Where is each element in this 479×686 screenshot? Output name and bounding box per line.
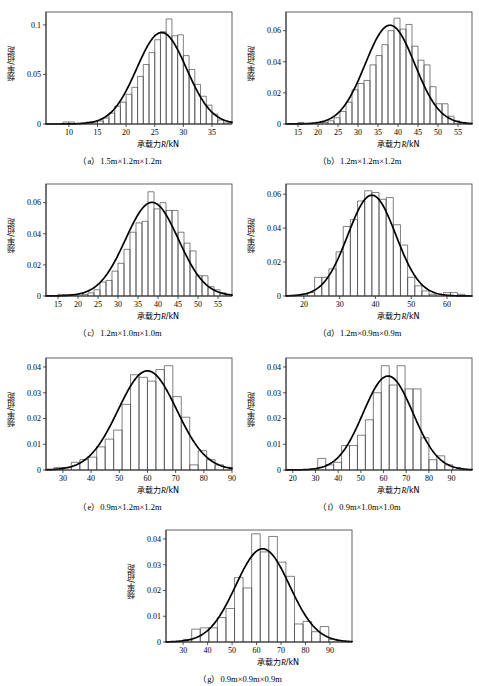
y-tick-label: 0.06 — [267, 190, 281, 199]
x-tick-label: 50 — [434, 128, 442, 137]
x-axis-ticks: 101520253035 — [65, 124, 216, 137]
x-tick-label: 30 — [59, 474, 67, 483]
plot-f: 00.010.020.030.042030405060708090 — [240, 348, 479, 492]
histogram-bars — [63, 19, 229, 124]
panel-caption: （a）1.5m×1.2m×1.2m — [0, 154, 240, 166]
x-tick-label: 90 — [228, 474, 236, 483]
normal-fit-curve — [166, 549, 352, 642]
y-tick-label: 0.06 — [27, 198, 41, 207]
x-tick-label: 40 — [394, 128, 402, 137]
x-tick-label: 35 — [208, 128, 216, 137]
y-tick-label: 0.04 — [27, 230, 41, 239]
y-axis-ticks: 00.010.020.030.04 — [267, 363, 286, 475]
y-axis-ticks: 00.020.040.06 — [27, 198, 46, 300]
x-tick-label: 35 — [134, 300, 142, 309]
normal-fit-curve — [46, 202, 232, 296]
y-axis-label: 频率/组距 — [8, 392, 16, 427]
figure-container: 00.050.1101520253035 频率/组距 承载力R/kN （a）1.… — [0, 0, 479, 686]
x-tick-label: 30 — [114, 300, 122, 309]
y-axis-label: 频率/组距 — [248, 218, 256, 253]
x-tick-label: 45 — [414, 128, 422, 137]
plot-area-d: 00.020.040.062030405060 — [240, 174, 479, 318]
x-axis-ticks: 152025303540455055 — [294, 124, 462, 137]
y-tick-label: 0.02 — [267, 258, 281, 267]
y-tick-label: 0.01 — [267, 440, 281, 449]
panel-caption: （f）0.9m×1.0m×1.0m — [240, 500, 479, 512]
x-tick-label: 90 — [448, 474, 456, 483]
histogram-bars — [183, 534, 337, 642]
x-tick-label: 50 — [407, 300, 415, 309]
x-tick-label: 90 — [326, 646, 334, 655]
y-tick-label: 0.05 — [27, 70, 41, 79]
panel-f: 00.010.020.030.042030405060708090 频率/组距 … — [240, 348, 479, 516]
x-tick-label: 70 — [402, 474, 410, 483]
histogram-bars — [54, 366, 232, 470]
plot-area-a: 00.050.1101520253035 — [0, 2, 242, 146]
y-tick-label: 0.04 — [147, 535, 161, 544]
y-tick-label: 0.03 — [147, 561, 161, 570]
x-tick-label: 25 — [151, 128, 159, 137]
y-axis-label: 频率/组距 — [8, 218, 16, 253]
x-axis-label: 承载力R/kN — [120, 656, 398, 667]
panel-b: 00.020.040.06152025303540455055 频率/组距 承载… — [240, 2, 479, 170]
x-tick-label: 15 — [54, 300, 62, 309]
plot-area-e: 00.010.020.030.0430405060708090 — [0, 348, 242, 492]
x-tick-label: 70 — [277, 646, 285, 655]
x-tick-label: 70 — [172, 474, 180, 483]
x-axis-label: 承载力R/kN — [240, 138, 479, 149]
plot-frame — [286, 12, 472, 124]
normal-fit-curve — [286, 25, 472, 124]
y-tick-label: 0.1 — [31, 21, 41, 30]
y-axis-ticks: 00.020.040.06 — [267, 190, 286, 301]
y-tick-label: 0 — [37, 120, 41, 129]
x-tick-label: 20 — [74, 300, 82, 309]
plot-d: 00.020.040.062030405060 — [240, 174, 479, 318]
y-axis-label: 频率/组距 — [248, 392, 256, 427]
x-tick-label: 20 — [122, 128, 130, 137]
panel-e: 00.010.020.030.0430405060708090 频率/组距 承载… — [0, 348, 240, 516]
x-tick-label: 15 — [294, 128, 302, 137]
x-tick-label: 50 — [115, 474, 123, 483]
x-tick-label: 50 — [228, 646, 236, 655]
x-tick-label: 40 — [371, 300, 379, 309]
plot-b: 00.020.040.06152025303540455055 — [240, 2, 479, 146]
x-tick-label: 55 — [214, 300, 222, 309]
plot-area-g: 00.010.020.030.0430405060708090 — [120, 520, 362, 664]
y-tick-label: 0 — [277, 120, 281, 129]
y-tick-label: 0.04 — [267, 58, 281, 67]
y-tick-label: 0.02 — [267, 414, 281, 423]
x-tick-label: 30 — [354, 128, 362, 137]
x-tick-label: 30 — [179, 646, 187, 655]
x-tick-label: 45 — [174, 300, 182, 309]
panel-caption: （b）1.2m×1.2m×1.2m — [240, 154, 479, 166]
x-axis-label: 承载力R/kN — [240, 484, 479, 495]
panel-g: 00.010.020.030.0430405060708090 频率/组距 承载… — [120, 520, 360, 686]
plot-e: 00.010.020.030.0430405060708090 — [0, 348, 242, 492]
y-tick-label: 0 — [37, 466, 41, 475]
y-axis-ticks: 00.050.1 — [27, 21, 46, 129]
y-tick-label: 0.03 — [267, 389, 281, 398]
plot-frame — [46, 12, 232, 124]
plot-area-f: 00.010.020.030.042030405060708090 — [240, 348, 479, 492]
normal-fit-curve — [46, 33, 232, 124]
y-axis-label: 频率/组距 — [248, 46, 256, 81]
y-axis-label: 频率/组距 — [8, 46, 16, 81]
x-tick-label: 50 — [194, 300, 202, 309]
y-tick-label: 0.02 — [27, 261, 41, 270]
panel-caption: （g）0.9m×0.9m×0.9m — [120, 672, 360, 684]
y-tick-label: 0.02 — [147, 586, 161, 595]
x-tick-label: 40 — [87, 474, 95, 483]
x-tick-label: 60 — [253, 646, 261, 655]
plot-frame — [286, 358, 472, 470]
x-tick-label: 80 — [302, 646, 310, 655]
x-tick-label: 60 — [380, 474, 388, 483]
x-tick-label: 60 — [143, 474, 151, 483]
y-axis-ticks: 00.020.040.06 — [267, 26, 286, 128]
panel-c: 00.020.040.06152025303540455055 频率/组距 承载… — [0, 174, 240, 342]
y-tick-label: 0.02 — [267, 89, 281, 98]
x-axis-ticks: 30405060708090 — [179, 642, 334, 655]
panel-a: 00.050.1101520253035 频率/组距 承载力R/kN （a）1.… — [0, 2, 240, 170]
y-tick-label: 0.03 — [27, 389, 41, 398]
x-tick-label: 30 — [336, 300, 344, 309]
plot-a: 00.050.1101520253035 — [0, 2, 242, 146]
